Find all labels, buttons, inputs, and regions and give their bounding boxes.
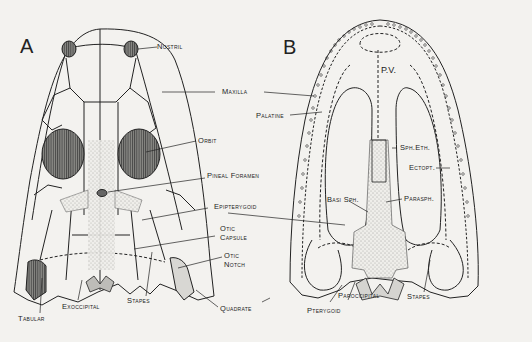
label-quadrate: Quadrate	[220, 305, 252, 313]
label-otic-capsule-line2: Capsule	[220, 234, 247, 242]
skull-drawings	[0, 0, 532, 342]
label-basi-sph: Basi Sph.	[327, 196, 359, 204]
label-otic-notch-line1: Otic	[224, 252, 239, 260]
label-exoccipital: Exoccipital	[62, 303, 100, 311]
label-parasph: Parasph.	[404, 195, 434, 203]
label-tabular: Tabular	[18, 315, 45, 323]
label-ectopt: Ectopt.	[409, 164, 435, 172]
label-otic-notch-line2: Notch	[224, 261, 245, 269]
label-stapes-a: Stapes	[127, 297, 150, 305]
label-pineal-foramen: Pineal Foramen	[207, 172, 259, 180]
label-pv: P.V.	[381, 66, 396, 75]
label-paroccipital: Paroccipital	[338, 292, 380, 300]
pineal-foramen	[97, 190, 107, 197]
panel-b-letter: B	[283, 37, 296, 57]
label-otic-capsule-line1: Otic	[220, 225, 235, 233]
label-palatine: Palatine	[256, 112, 284, 120]
orbit-left	[42, 129, 84, 179]
label-maxilla: Maxilla	[222, 88, 247, 96]
label-stapes-b: Stapes	[407, 293, 430, 301]
median-stippled-region-a	[88, 140, 115, 270]
label-epipterygoid: Epipterygoid	[214, 203, 257, 211]
parasphenoid-stippled	[352, 140, 408, 278]
panel-a-letter: A	[20, 36, 33, 56]
label-orbit: Orbit	[198, 137, 217, 145]
label-pterygoid: Pterygoid	[307, 307, 341, 315]
nostril-right	[124, 41, 138, 57]
label-sph-eth: Sph.Eth.	[400, 144, 430, 152]
skull-diagram-figure: A B Nostril Maxilla Orbit Pineal Foramen…	[0, 0, 532, 342]
orbit-right	[118, 129, 160, 179]
label-nostril: Nostril	[157, 43, 183, 51]
nostril-left	[62, 41, 76, 57]
